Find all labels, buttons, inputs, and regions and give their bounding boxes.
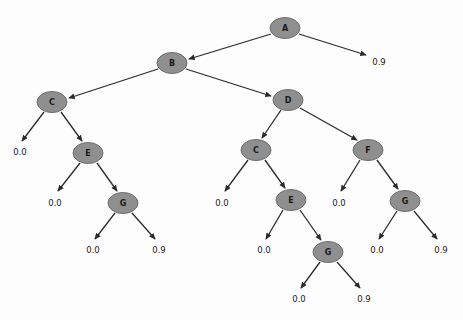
tree-edge <box>262 110 281 138</box>
tree-edge <box>299 34 366 55</box>
tree-leaf-value: 0.9 <box>357 294 371 304</box>
tree-leaf-value: 0.0 <box>48 198 62 208</box>
tree-leaf-value: 0.0 <box>292 294 306 304</box>
tree-node-label: C <box>253 146 259 155</box>
tree-node[interactable]: G <box>108 193 138 214</box>
tree-node-label: B <box>169 59 175 68</box>
tree-node[interactable]: C <box>37 92 67 113</box>
tree-node-label: G <box>402 197 409 206</box>
tree-node[interactable]: E <box>73 143 103 164</box>
tree-node[interactable]: G <box>313 242 343 263</box>
tree-edge <box>22 112 44 141</box>
tree-node-label: E <box>288 196 293 205</box>
tree-node[interactable]: G <box>390 191 420 212</box>
tree-node-label: C <box>49 98 55 107</box>
tree-edge <box>186 69 271 96</box>
tree-leaf-value: 0.0 <box>257 245 271 255</box>
tree-node-label: G <box>325 248 332 257</box>
tree-node-label: A <box>282 24 289 33</box>
tree-edge <box>300 108 357 140</box>
tree-node[interactable]: B <box>157 53 187 74</box>
tree-edge <box>95 213 115 239</box>
tree-node-label: F <box>365 146 370 155</box>
tree-edge <box>379 211 397 239</box>
tree-edge <box>266 210 283 239</box>
tree-edge <box>301 262 320 288</box>
tree-node[interactable]: C <box>241 140 271 161</box>
tree-node[interactable]: F <box>353 140 383 161</box>
tree-leaf-value: 0.0 <box>332 198 346 208</box>
tree-leaf-value: 0.9 <box>152 245 166 255</box>
tree-edge <box>189 34 271 59</box>
tree-leaf-value: 0.0 <box>13 147 27 157</box>
tree-edge <box>69 69 158 98</box>
tree-edge <box>132 213 155 239</box>
tree-edge <box>337 262 360 288</box>
tree-node[interactable]: A <box>270 18 300 39</box>
tree-leaf-value: 0.9 <box>372 57 386 67</box>
tree-edge <box>377 160 398 189</box>
tree-leaf-value: 0.0 <box>215 198 229 208</box>
tree-edge <box>414 211 437 239</box>
tree-edge <box>265 160 285 188</box>
tree-leaf-value: 0.9 <box>434 245 448 255</box>
tree-leaf-value: 0.0 <box>370 245 384 255</box>
tree-edge <box>58 163 80 191</box>
tree-node[interactable]: E <box>276 190 306 211</box>
tree-edge <box>97 163 117 191</box>
tree-diagram-svg: ABCDECFGEGG 0.90.00.00.00.90.00.00.00.00… <box>0 0 463 320</box>
tree-edge <box>225 160 248 191</box>
tree-node-label: E <box>85 149 90 158</box>
tree-node-label: D <box>285 96 292 105</box>
tree-edge <box>341 160 360 191</box>
tree-leaf-value: 0.0 <box>86 245 100 255</box>
tree-edge <box>300 210 321 240</box>
tree-node[interactable]: D <box>273 90 303 111</box>
tree-edge <box>61 112 82 141</box>
leaves-group: 0.90.00.00.00.90.00.00.00.00.90.00.9 <box>13 57 448 304</box>
tree-diagram-canvas: ABCDECFGEGG 0.90.00.00.00.90.00.00.00.00… <box>0 0 463 320</box>
tree-node-label: G <box>120 199 127 208</box>
